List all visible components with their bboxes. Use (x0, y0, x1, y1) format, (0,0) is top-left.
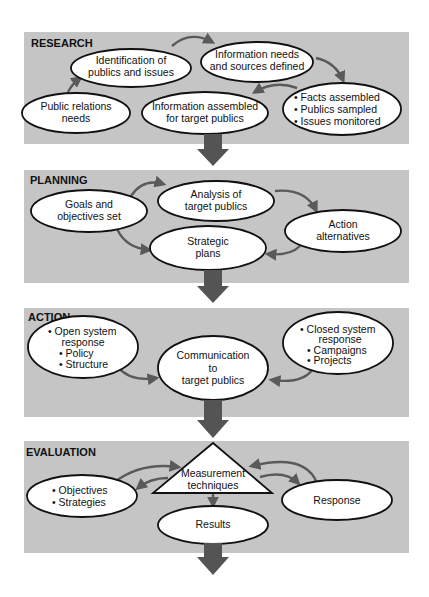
stage-evaluation: EVALUATION • Objectives • Strategies Res… (24, 441, 409, 553)
svg-text:Action: Action (328, 218, 357, 230)
node-open-system: • Open system response • Policy • Struct… (28, 316, 138, 378)
node-facts: • Facts assembled • Publics sampled • Is… (283, 83, 401, 135)
node-results: Results (158, 506, 268, 544)
pr-process-diagram: RESEARCH Public relations needs Identifi… (0, 0, 429, 597)
svg-text:Strategic: Strategic (187, 235, 228, 247)
svg-text:objectives set: objectives set (57, 210, 121, 222)
svg-text:• Publics sampled: • Publics sampled (294, 103, 377, 115)
svg-text:Public relations: Public relations (40, 100, 111, 112)
node-response: Response (282, 480, 392, 520)
svg-text:Information needs: Information needs (215, 48, 299, 60)
node-info-assembled: Information assembled for target publics (142, 92, 268, 134)
svg-text:• Objectives: • Objectives (52, 484, 108, 496)
svg-text:Information assembled: Information assembled (152, 100, 258, 112)
svg-text:target publics: target publics (185, 200, 247, 212)
svg-text:publics and issues: publics and issues (88, 66, 174, 78)
node-analysis: Analysis of target publics (158, 181, 274, 221)
node-identification: Identification of publics and issues (71, 49, 191, 87)
node-action-alternatives: Action alternatives (285, 210, 401, 252)
node-strategic-plans: Strategic plans (150, 226, 266, 270)
stage-label-research: RESEARCH (31, 37, 93, 49)
svg-text:and sources defined: and sources defined (210, 60, 305, 72)
node-info-needs: Information needs and sources defined (201, 42, 313, 82)
node-communication: Communication to target publics (158, 336, 268, 400)
svg-text:Identification of: Identification of (96, 54, 167, 66)
svg-text:Results: Results (195, 518, 230, 530)
svg-text:needs: needs (62, 112, 91, 124)
svg-text:• Structure: • Structure (59, 358, 108, 370)
node-objectives: • Objectives • Strategies (27, 475, 137, 517)
svg-text:for target publics: for target publics (166, 112, 244, 124)
node-pr-needs: Public relations needs (22, 93, 130, 133)
svg-text:• Strategies: • Strategies (52, 496, 106, 508)
svg-text:• Facts assembled: • Facts assembled (294, 91, 380, 103)
node-closed-system: • Closed system response • Campaigns • P… (283, 312, 393, 374)
svg-text:Response: Response (313, 494, 360, 506)
svg-text:target publics: target publics (182, 374, 244, 386)
svg-text:• Projects: • Projects (307, 354, 352, 366)
stage-label-evaluation: EVALUATION (26, 446, 96, 458)
svg-text:Communication: Communication (177, 349, 250, 361)
stage-label-planning: PLANNING (30, 174, 87, 186)
svg-text:Analysis of: Analysis of (191, 188, 242, 200)
stage-research: RESEARCH Public relations needs Identifi… (22, 32, 409, 144)
svg-text:to: to (209, 362, 218, 374)
stage-planning: PLANNING Goals and objectives set Analys… (24, 170, 409, 283)
svg-text:Measurement: Measurement (181, 467, 245, 479)
node-goals: Goals and objectives set (31, 190, 147, 232)
svg-text:alternatives: alternatives (316, 230, 370, 242)
svg-text:plans: plans (195, 247, 220, 259)
svg-text:• Issues monitored: • Issues monitored (294, 115, 381, 127)
svg-text:Goals and: Goals and (65, 198, 113, 210)
svg-text:techniques: techniques (188, 479, 239, 491)
